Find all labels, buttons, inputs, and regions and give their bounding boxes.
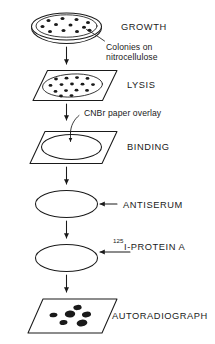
binding-sheet [30,132,117,164]
protein-a-disc [36,245,98,272]
stage-binding: CNBr paper overlay BINDING [30,108,170,164]
stage-antiserum: ANTISERUM [36,191,183,218]
stage-label-lysis: LYSIS [127,80,155,90]
stage-label-growth: GROWTH [121,22,167,32]
workflow-diagram: GROWTH Colonies on nitrocellulose [0,0,215,344]
stage-label-protein-a: I-PROTEIN A [124,242,186,252]
stage-autoradiograph: AUTORADIOGRAPH [28,299,208,333]
stage-label-autoradiograph: AUTORADIOGRAPH [112,311,208,321]
antiserum-disc [36,191,98,218]
stage-growth: GROWTH Colonies on nitrocellulose [32,13,167,62]
protein-a-isotope-superscript: 125 [113,237,124,244]
diagram-canvas: GROWTH Colonies on nitrocellulose [0,0,215,344]
callout-colonies-line1: Colonies on [106,42,153,52]
stage-protein-a: 125 I-PROTEIN A [36,237,186,272]
stage-label-binding: BINDING [127,142,170,152]
stage-lysis: LYSIS [33,71,155,101]
callout-leader-cnbr [71,116,80,134]
callout-colonies-line2: nitrocellulose [106,52,158,62]
callout-cnbr-overlay: CNBr paper overlay [84,108,162,118]
stage-label-antiserum: ANTISERUM [123,200,183,210]
